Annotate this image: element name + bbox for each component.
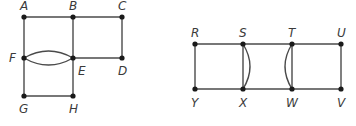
vertex-label-C: C: [118, 0, 127, 13]
vertex-label-E: E: [78, 64, 86, 78]
vertex-label-U: U: [337, 26, 346, 40]
edge-F-E-up: [24, 51, 73, 58]
vertex-T: [289, 41, 294, 46]
vertex-F: [21, 55, 26, 60]
vertex-B: [70, 14, 75, 19]
vertex-U: [338, 41, 343, 46]
graph-diagram: ABCFEDGH RSTUYXWV: [0, 0, 356, 126]
vertex-H: [70, 93, 75, 98]
vertex-label-D: D: [118, 64, 127, 78]
vertex-A: [21, 14, 26, 19]
right-graph: RSTUYXWV: [191, 26, 346, 110]
vertex-E: [70, 55, 75, 60]
edge-S-X-right: [243, 44, 250, 89]
vertex-Y: [192, 86, 197, 91]
vertex-V: [338, 86, 343, 91]
vertex-label-F: F: [9, 51, 17, 65]
vertex-D: [119, 55, 124, 60]
vertex-label-B: B: [69, 0, 77, 13]
vertex-label-T: T: [288, 26, 297, 40]
vertex-label-A: A: [19, 0, 28, 13]
edge-T-W-left: [285, 44, 292, 89]
vertex-R: [192, 41, 197, 46]
vertex-G: [21, 93, 26, 98]
vertex-label-H: H: [69, 102, 78, 116]
vertex-C: [119, 14, 124, 19]
left-graph: ABCFEDGH: [9, 0, 127, 116]
vertex-label-W: W: [286, 96, 299, 110]
vertex-S: [240, 41, 245, 46]
vertex-label-V: V: [337, 96, 346, 110]
vertex-label-S: S: [239, 26, 247, 40]
edge-F-E-down: [24, 58, 73, 65]
vertex-label-Y: Y: [191, 96, 200, 110]
vertex-label-X: X: [238, 96, 248, 110]
vertex-X: [240, 86, 245, 91]
vertex-W: [289, 86, 294, 91]
vertex-label-G: G: [19, 102, 28, 116]
vertex-label-R: R: [191, 26, 199, 40]
